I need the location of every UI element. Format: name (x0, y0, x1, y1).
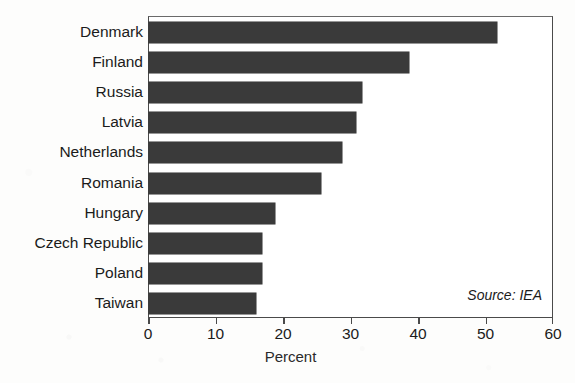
x-axis-tick (418, 318, 420, 324)
x-axis-title: Percent (0, 348, 575, 365)
category-label: Taiwan (95, 292, 143, 313)
x-axis-tick-label: 10 (207, 325, 224, 343)
category-label: Russia (96, 81, 143, 102)
x-axis-tick (283, 318, 285, 324)
x-axis-tick-labels: 0102030405060 (148, 325, 553, 345)
category-label: Netherlands (59, 141, 143, 162)
chart-title-fragment: Share of CHP in Power Generation (0, 0, 575, 8)
bar-fill (149, 142, 342, 163)
x-axis-tick (351, 318, 353, 324)
bar-fill (149, 203, 275, 224)
plot-area: Source: IEA (148, 16, 553, 318)
bar (149, 112, 356, 133)
category-label: Poland (95, 262, 143, 283)
bar-fill (149, 52, 409, 73)
category-label: Hungary (84, 202, 143, 223)
bar-fill (149, 263, 262, 284)
bar-fill (149, 173, 321, 194)
category-label: Denmark (80, 21, 143, 42)
bar (149, 52, 409, 73)
bar (149, 82, 362, 103)
category-label: Finland (92, 51, 143, 72)
x-axis-tick-label: 0 (144, 325, 153, 343)
source-annotation: Source: IEA (467, 287, 542, 303)
x-axis-tick (148, 318, 150, 324)
x-axis-tick-label: 40 (409, 325, 426, 343)
bar-fill (149, 112, 356, 133)
bar (149, 22, 497, 43)
bar (149, 263, 262, 284)
bar (149, 173, 321, 194)
bar-fill (149, 233, 262, 254)
x-axis-title-text: Percent (265, 348, 317, 365)
bar-fill (149, 22, 497, 43)
x-axis-tick (486, 318, 488, 324)
x-axis-tick-label: 50 (477, 325, 494, 343)
category-axis-labels: DenmarkFinlandRussiaLatviaNetherlandsRom… (0, 16, 143, 318)
x-axis-tick-label: 60 (544, 325, 561, 343)
x-axis-tick (216, 318, 218, 324)
category-label: Czech Republic (34, 232, 143, 253)
bar-series (149, 17, 552, 317)
x-axis-tick (552, 318, 554, 324)
bar (149, 233, 262, 254)
chart-title-text: Share of CHP in Power Generation (148, 0, 426, 4)
bar-fill (149, 293, 256, 314)
category-label: Romania (81, 172, 143, 193)
x-axis-tick-label: 20 (274, 325, 291, 343)
x-axis-ticks (148, 318, 553, 324)
bar (149, 142, 342, 163)
x-axis-tick-label: 30 (342, 325, 359, 343)
bar (149, 203, 275, 224)
chart-page: Share of CHP in Power Generation Denmark… (0, 0, 575, 383)
bar (149, 293, 256, 314)
category-label: Latvia (102, 111, 143, 132)
bar-fill (149, 82, 362, 103)
